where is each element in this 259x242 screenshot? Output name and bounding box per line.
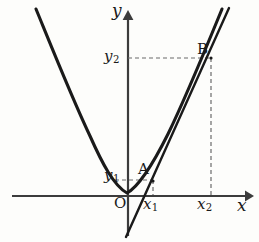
tick-label-x1: x1 [143,197,158,213]
tick-label-x1-subscript: 1 [152,202,158,213]
tick-label-y1: y1 [104,168,119,184]
x-axis [12,191,254,202]
origin-label: O [114,196,126,211]
y-axis-label: y [112,2,122,19]
tick-label-y2-base: y [104,47,112,65]
tick-label-y2: y2 [104,49,119,65]
point-b-label: B [197,42,208,57]
tick-label-y1-subscript: 1 [113,173,119,184]
secant-line [126,8,229,237]
tick-label-y2-subscript: 2 [113,54,119,65]
point-a-marker [151,179,154,182]
tick-label-x2-base: x [197,195,205,213]
tick-label-x1-base: x [143,195,151,213]
parabola-secant-figure: y x O A B y1 y2 x1 x2 [0,0,259,242]
tick-label-x2-subscript: 2 [206,202,212,213]
tick-label-y1-base: y [104,166,112,184]
tick-label-x2: x2 [197,197,212,213]
point-a-label: A [138,162,149,177]
point-b-marker [209,56,212,59]
figure-canvas [0,0,259,242]
x-axis-label: x [237,197,247,214]
y-axis-arrowhead [123,10,134,20]
